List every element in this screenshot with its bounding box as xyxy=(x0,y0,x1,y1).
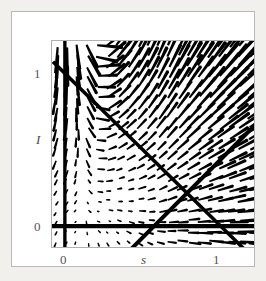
ascending-nullcline xyxy=(127,124,254,247)
y-axis-tick-0: 0 xyxy=(34,220,41,233)
plot-area xyxy=(51,40,255,248)
y-axis-label: I xyxy=(36,133,40,146)
figure-card: 1 0 I 0 s 1 xyxy=(11,11,255,267)
x-axis-tick-1: 1 xyxy=(213,253,220,266)
y-axis-tick-1: 1 xyxy=(34,67,41,80)
descending-nullcline xyxy=(53,62,246,247)
x-axis-label: s xyxy=(141,253,146,266)
nullcline-lines xyxy=(52,41,254,247)
x-axis-tick-0: 0 xyxy=(60,253,67,266)
